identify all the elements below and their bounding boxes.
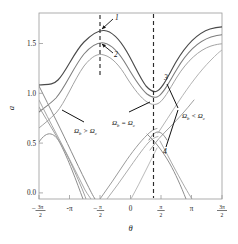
x-tick-label-6-den: 2 <box>221 212 224 218</box>
region-label-less: Ωb < Ωc <box>182 112 206 121</box>
y-tick-label-1: 0.5 <box>27 140 36 148</box>
y-tick-label-3: 1.5 <box>27 40 36 48</box>
stability-chart-figure: 0.0 0.5 1.0 1.5 a − 3π 2 -π − π 2 <box>0 0 238 244</box>
y-tick-label-0: 0.0 <box>27 189 36 197</box>
region-label-equal: Ωb = Ωc <box>112 119 136 128</box>
label-3: 3 <box>163 73 168 82</box>
x-axis-title: θ <box>128 223 132 233</box>
x-tick-label-0-num: 3π <box>38 204 44 210</box>
svg-text:Ωb = Ωc: Ωb = Ωc <box>112 119 136 128</box>
x-tick-label-1: -π <box>66 205 72 213</box>
y-tick-label-2: 1.0 <box>27 90 36 98</box>
x-tick-label-3: 0 <box>129 205 133 213</box>
label-4: 4 <box>163 147 167 156</box>
x-tick-label-0-den: 2 <box>39 212 42 218</box>
x-tick-label-2-num: π <box>99 204 102 210</box>
svg-text:Ωb > Ωc: Ωb > Ωc <box>74 127 98 136</box>
svg-text:−: − <box>93 205 97 213</box>
svg-text:Ωb < Ωc: Ωb < Ωc <box>182 112 206 121</box>
x-tick-label-5: π <box>190 205 194 213</box>
svg-text:−: − <box>32 205 36 213</box>
y-axis-title: a <box>6 106 16 110</box>
region-label-greater: Ωb > Ωc <box>74 127 98 136</box>
x-tick-label-6-num: 3π <box>219 204 225 210</box>
label-2: 2 <box>114 50 118 59</box>
label-1: 1 <box>115 13 119 22</box>
x-tick-label-4-den: 2 <box>160 212 163 218</box>
x-tick-label-2-den: 2 <box>99 212 102 218</box>
x-tick-label-4-num: π <box>160 204 163 210</box>
